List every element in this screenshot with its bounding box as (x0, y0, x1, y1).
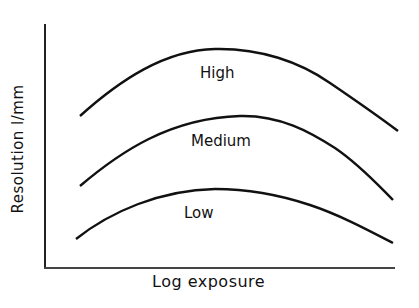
curve-high (80, 49, 398, 131)
series-label-medium: Medium (191, 132, 251, 150)
series-label-high: High (200, 64, 234, 82)
series-label-low: Low (184, 204, 214, 222)
curve-low (76, 189, 393, 243)
y-axis-label: Resolution l/mm (9, 69, 27, 229)
x-axis-label: Log exposure (152, 272, 265, 291)
curve-medium (80, 116, 393, 200)
chart-canvas (0, 0, 419, 308)
